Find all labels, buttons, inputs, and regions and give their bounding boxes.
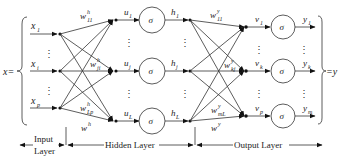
input-node-i: x i — [30, 58, 62, 73]
output-ellipsis-2: ⋮ — [299, 44, 309, 55]
svg-text:x: x — [30, 58, 36, 69]
output-ellipsis-4: ⋮ — [299, 88, 309, 99]
input-ellipsis-1: ⋮ — [44, 48, 54, 59]
hidden-ellipsis-4: ⋮ — [180, 88, 190, 99]
hidden-unit-L: u L σ h L — [114, 108, 191, 134]
svg-text:y: y — [302, 14, 307, 24]
svg-text:σ: σ — [280, 66, 285, 76]
weight-label-w-h-Lp: w h Lp — [80, 101, 93, 115]
svg-text:y: y — [217, 121, 221, 127]
svg-text:x: x — [30, 95, 36, 106]
svg-text:i: i — [37, 65, 39, 71]
input-node-p: x p — [30, 95, 62, 110]
svg-text:1: 1 — [260, 20, 263, 26]
svg-text:w: w — [81, 123, 87, 133]
svg-text:w: w — [224, 60, 230, 70]
hidden-ellipsis-2: ⋮ — [180, 37, 190, 48]
weight-label-w-y-11: w y 11 — [210, 8, 223, 22]
svg-text:w: w — [90, 59, 96, 69]
svg-text:L: L — [175, 114, 180, 120]
svg-text:h: h — [88, 121, 91, 127]
input-ellipsis-2: ⋮ — [44, 85, 54, 96]
output-unit-k: v k σ y k — [244, 58, 315, 83]
svg-text:kj: kj — [231, 66, 236, 72]
svg-text:11: 11 — [87, 17, 93, 23]
output-ellipsis-1: ⋮ — [254, 44, 264, 55]
svg-text:p: p — [36, 102, 40, 108]
weight-label-w-y-kj: w y kj — [224, 58, 236, 72]
hidden-ellipsis-1: ⋮ — [124, 37, 134, 48]
hidden-layer-label: Hidden Layer — [105, 140, 155, 150]
svg-text:m: m — [308, 109, 313, 115]
svg-text:σ: σ — [280, 22, 285, 32]
hidden-unit-1: u 1 σ h 1 — [114, 7, 191, 33]
svg-text:1: 1 — [129, 13, 132, 19]
svg-text:1: 1 — [37, 27, 40, 33]
svg-text:y: y — [217, 103, 221, 109]
svg-text:mL: mL — [218, 111, 226, 117]
svg-text:11: 11 — [217, 16, 223, 22]
svg-text:w: w — [80, 103, 86, 113]
output-ellipsis-3: ⋮ — [254, 88, 264, 99]
svg-text:σ: σ — [149, 116, 154, 126]
svg-text:1: 1 — [176, 13, 179, 19]
weight-matrix-w-y: w y — [211, 121, 221, 133]
neural-network-diagram: x= x 1 ⋮ x i ⋮ x p w h 11 w h — [0, 0, 343, 163]
svg-text:j: j — [128, 64, 131, 70]
svg-text:1: 1 — [308, 20, 311, 26]
output-unit-1: v 1 σ y 1 — [244, 14, 315, 39]
svg-text:L: L — [128, 114, 133, 120]
svg-text:y: y — [216, 8, 220, 14]
input-layer-label-line2: Layer — [34, 146, 55, 156]
svg-text:σ: σ — [149, 66, 154, 76]
svg-text:w: w — [211, 123, 217, 133]
output-brace — [318, 16, 326, 124]
weight-label-w-h-11: w h 11 — [80, 9, 93, 23]
weight-label-w-h-ji: w h ji — [90, 57, 101, 71]
svg-text:Lp: Lp — [86, 109, 93, 115]
svg-text:σ: σ — [149, 15, 154, 25]
input-layer-span: Input Layer — [20, 134, 64, 156]
hidden-ellipsis-3: ⋮ — [124, 88, 134, 99]
input-layer-label-line1: Input — [34, 134, 53, 144]
svg-text:y: y — [302, 103, 307, 113]
output-layer-span: Output Layer — [197, 140, 322, 150]
input-node-1: x 1 — [30, 20, 62, 36]
output-unit-m: v p σ y m — [244, 103, 315, 128]
input-brace — [17, 17, 27, 125]
svg-text:v: v — [255, 58, 259, 68]
svg-text:x: x — [30, 20, 36, 31]
svg-text:h: h — [97, 57, 100, 63]
input-vector-label: x= — [2, 66, 14, 77]
svg-text:v: v — [255, 103, 259, 113]
weight-label-w-y-mL: w y mL — [211, 103, 226, 117]
svg-text:y: y — [230, 58, 234, 64]
svg-text:ji: ji — [96, 65, 101, 71]
svg-text:h: h — [87, 9, 90, 15]
svg-text:w: w — [210, 10, 216, 20]
output-layer-label: Output Layer — [234, 140, 282, 150]
svg-text:σ: σ — [280, 111, 285, 121]
svg-text:j: j — [175, 64, 178, 70]
svg-text:v: v — [255, 14, 259, 24]
svg-text:h: h — [87, 101, 90, 107]
svg-text:p: p — [259, 109, 263, 115]
hidden-unit-j: u j σ h j — [114, 58, 191, 84]
svg-text:k: k — [260, 64, 263, 70]
svg-text:k: k — [308, 64, 311, 70]
svg-text:w: w — [80, 11, 86, 21]
weight-matrix-w-h: w h — [81, 121, 91, 133]
output-vector-label: =y — [326, 66, 338, 77]
hidden-layer-span: Hidden Layer — [68, 140, 193, 150]
svg-text:w: w — [211, 105, 217, 115]
svg-text:y: y — [302, 58, 307, 68]
